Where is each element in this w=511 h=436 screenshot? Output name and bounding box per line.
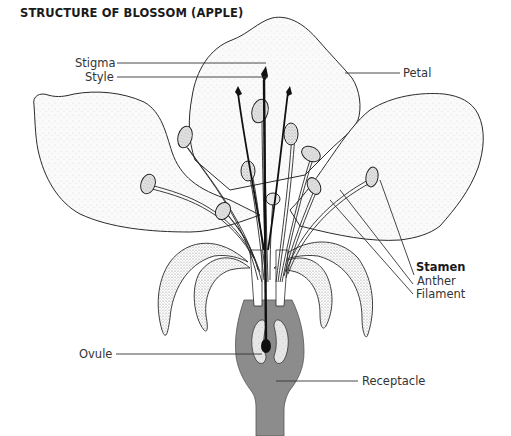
label-stigma: Stigma [75, 56, 116, 70]
label-ovule: Ovule [79, 347, 112, 361]
label-stamen: Stamen [416, 260, 466, 274]
label-style: Style [85, 70, 114, 84]
label-receptacle: Receptacle [362, 374, 425, 388]
label-filament: Filament [416, 287, 465, 301]
label-petal: Petal [403, 66, 431, 80]
label-anther: Anther [417, 274, 456, 288]
floral-tube [250, 250, 288, 306]
style-base [261, 339, 271, 353]
sepals-left [158, 243, 250, 335]
receptacle [235, 300, 304, 436]
